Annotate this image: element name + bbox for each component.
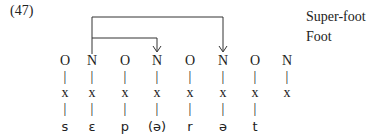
- constituent-node: O: [115, 53, 135, 69]
- segment: (ə): [147, 119, 167, 135]
- association-line: |: [147, 69, 167, 85]
- association-line: |: [245, 101, 265, 117]
- association-line: |: [115, 69, 135, 85]
- association-line: |: [277, 69, 297, 85]
- constituent-node: N: [82, 53, 102, 69]
- association-line: |: [245, 69, 265, 85]
- segment: s: [55, 119, 75, 135]
- constituent-node: O: [180, 53, 200, 69]
- skeletal-slot: x: [55, 85, 75, 101]
- segment: r: [180, 119, 200, 135]
- association-line: |: [55, 101, 75, 117]
- association-line: |: [82, 69, 102, 85]
- association-line: |: [213, 69, 233, 85]
- constituent-node: O: [55, 53, 75, 69]
- segment: ə: [213, 119, 233, 135]
- association-line: |: [115, 101, 135, 117]
- association-line: |: [180, 101, 200, 117]
- skeletal-slot: x: [82, 85, 102, 101]
- association-line: |: [180, 69, 200, 85]
- segment: ɛ: [82, 119, 102, 135]
- association-line: |: [213, 101, 233, 117]
- skeletal-slot: x: [147, 85, 167, 101]
- constituent-node: N: [147, 53, 167, 69]
- skeletal-slot: x: [245, 85, 265, 101]
- constituent-node: N: [277, 53, 297, 69]
- segment: t: [245, 119, 265, 135]
- association-line: |: [82, 101, 102, 117]
- segment: p: [115, 119, 135, 135]
- skeletal-slot: x: [115, 85, 135, 101]
- constituent-node: O: [245, 53, 265, 69]
- skeletal-slot: x: [180, 85, 200, 101]
- constituent-node: N: [213, 53, 233, 69]
- skeletal-slot: x: [213, 85, 233, 101]
- skeletal-slot: x: [277, 85, 297, 101]
- association-line: |: [55, 69, 75, 85]
- association-line: |: [147, 101, 167, 117]
- foot-arc: [92, 38, 161, 52]
